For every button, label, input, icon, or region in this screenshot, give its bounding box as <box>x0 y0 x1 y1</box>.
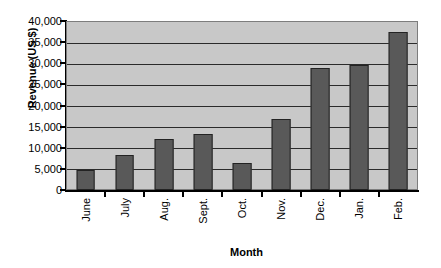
x-axis-tick-mark <box>182 191 184 197</box>
x-axis-tick-labels: JuneJulyAug.Sept.Oct.Nov.Dec.Jan.Feb. <box>66 198 418 242</box>
x-label-slot: Feb. <box>379 198 418 242</box>
x-axis-tick-label: Sept. <box>197 198 209 224</box>
x-axis-title-text: Month <box>178 246 263 258</box>
x-label-slot: July <box>105 198 144 242</box>
x-axis-tick-label: Aug. <box>158 198 170 221</box>
y-axis-tick-label: 35,000 <box>18 36 62 48</box>
y-axis-tick-label: 20,000 <box>18 100 62 112</box>
bar-slot <box>144 21 183 190</box>
bars-layer <box>66 21 418 190</box>
bar-slot <box>262 21 301 190</box>
y-axis-tick-mark <box>60 126 66 128</box>
bar-slot <box>379 21 418 190</box>
x-label-slot: Jan. <box>340 198 379 242</box>
y-axis-tick-label: 5,000 <box>18 163 62 175</box>
y-axis-tick-mark <box>60 168 66 170</box>
x-axis-tick-mark <box>143 191 145 197</box>
bar <box>154 139 173 190</box>
y-axis-tick-mark <box>60 20 66 22</box>
x-axis-tick-mark <box>221 191 223 197</box>
bar-slot <box>301 21 340 190</box>
x-axis-tick-label: July <box>119 198 131 218</box>
y-axis-tick-label: 0 <box>18 184 62 196</box>
y-axis-tick-label: 25,000 <box>18 78 62 90</box>
bar-slot <box>222 21 261 190</box>
y-axis-tick-label: 30,000 <box>18 57 62 69</box>
bar <box>350 65 369 190</box>
bar <box>76 170 95 190</box>
x-axis-tick-label: Oct. <box>236 198 248 218</box>
bar <box>193 134 212 190</box>
x-axis-tick-mark <box>339 191 341 197</box>
bar-slot <box>183 21 222 190</box>
x-axis-tick-mark <box>261 191 263 197</box>
x-label-slot: Sept. <box>183 198 222 242</box>
x-axis-tick-mark <box>300 191 302 197</box>
x-label-slot: Dec. <box>301 198 340 242</box>
bar <box>272 119 291 190</box>
y-axis-tick-mark <box>60 105 66 107</box>
bar-slot <box>340 21 379 190</box>
y-axis-tick-mark <box>60 147 66 149</box>
x-axis-tick-mark <box>104 191 106 197</box>
bar-slot <box>66 21 105 190</box>
x-axis-tick-label: Dec. <box>314 198 326 221</box>
x-axis-tick-label: June <box>80 198 92 222</box>
x-label-slot: June <box>66 198 105 242</box>
x-axis-tick-label: Feb. <box>392 198 404 220</box>
x-label-slot: Nov. <box>262 198 301 242</box>
y-axis-tick-mark <box>60 189 66 191</box>
bar <box>233 163 252 190</box>
x-axis-title: Month <box>0 246 441 258</box>
y-axis-tick-label: 40,000 <box>18 15 62 27</box>
x-axis-tick-mark <box>378 191 380 197</box>
bar <box>115 155 134 190</box>
bar <box>311 68 330 190</box>
x-axis-tick-label: Jan. <box>353 198 365 219</box>
y-axis-tick-labels: 05,00010,00015,00020,00025,00030,00035,0… <box>18 21 62 190</box>
y-axis-tick-mark <box>60 41 66 43</box>
y-axis-tick-mark <box>60 83 66 85</box>
x-label-slot: Aug. <box>144 198 183 242</box>
y-axis-tick-label: 10,000 <box>18 142 62 154</box>
y-axis-tick-label: 15,000 <box>18 121 62 133</box>
bar-slot <box>105 21 144 190</box>
x-label-slot: Oct. <box>222 198 261 242</box>
x-axis-tick-label: Nov. <box>275 198 287 220</box>
y-axis-tick-mark <box>60 62 66 64</box>
bar-chart: Revenue (US $) 05,00010,00015,00020,0002… <box>0 0 441 268</box>
bar <box>389 32 408 190</box>
x-axis-line <box>65 190 419 192</box>
